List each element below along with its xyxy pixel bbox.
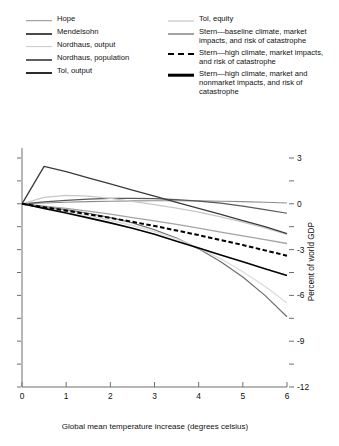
legend-line-swatch [168,16,194,25]
x-axis-title: Global mean temperature increase (degree… [22,422,288,431]
x-tick-label: 4 [196,391,201,401]
chart-figure: HopeMendelsohnNordhaus, outputNordhaus, … [0,0,339,446]
legend-item[interactable]: Nordhaus, output [26,40,166,51]
legend-line-swatch [26,55,52,64]
legend-item-label: Stern—high climate, market and nonmarket… [199,69,336,97]
series-line [22,204,287,303]
plot-area: Global mean temperature increase (degree… [0,134,339,446]
legend-line-swatch [26,68,52,77]
chart-legend: HopeMendelsohnNordhaus, outputNordhaus, … [0,14,339,132]
legend-item-label: Mendelsohn [57,27,98,36]
legend-item-label: Tol, equity [199,14,233,23]
x-tick-label: 6 [285,391,290,401]
legend-item[interactable]: Nordhaus, population [26,53,166,64]
legend-item[interactable]: Stern—high climate, market impacts, and … [168,48,336,67]
legend-item-label: Tol, output [57,66,92,75]
y-tick-label: -3 [297,245,304,255]
legend-column-right: Tol, equityStern—baseline climate, marke… [168,14,336,99]
legend-line-swatch [26,42,52,51]
y-tick-label: 0 [297,199,302,209]
x-tick-label: 5 [240,391,245,401]
legend-item-label: Stern—high climate, market impacts, and … [199,48,336,67]
legend-column-left: HopeMendelsohnNordhaus, outputNordhaus, … [26,14,166,79]
y-tick-label: -12 [297,382,309,392]
legend-item[interactable]: Stern—high climate, market and nonmarket… [168,69,336,97]
series-line [22,204,287,276]
x-tick-label: 2 [108,391,113,401]
legend-item[interactable]: Tol, equity [168,14,336,25]
legend-item[interactable]: Tol, output [26,66,166,77]
legend-line-swatch [26,16,52,25]
y-tick-label: -6 [297,290,304,300]
legend-item-label: Stern—baseline climate, market impacts, … [199,27,336,46]
legend-item[interactable]: Hope [26,14,166,25]
y-tick-label: 3 [297,153,302,163]
x-tick-label: 1 [64,391,69,401]
y-axis-title: Percent of world GDP [307,222,316,301]
legend-item-label: Hope [57,14,75,23]
legend-item-label: Nordhaus, output [57,40,115,49]
x-tick-label: 0 [20,391,25,401]
legend-line-swatch [168,71,194,80]
legend-item-label: Nordhaus, population [57,53,129,62]
legend-line-swatch [168,29,194,38]
legend-item[interactable]: Stern—baseline climate, market impacts, … [168,27,336,46]
legend-line-swatch [26,29,52,38]
legend-line-swatch [168,50,194,59]
legend-item[interactable]: Mendelsohn [26,27,166,38]
x-tick-label: 3 [152,391,157,401]
y-tick-label: -9 [297,336,304,346]
